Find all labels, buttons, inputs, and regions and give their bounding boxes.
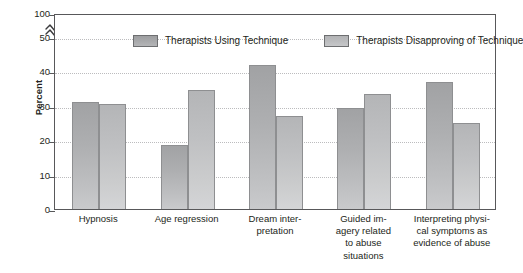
- category-label-line: Interpreting physi-: [402, 213, 502, 225]
- category-label-line: Guided im-: [313, 213, 413, 225]
- bar: [249, 65, 276, 209]
- category-label-line: pretation: [225, 225, 325, 237]
- x-axis-category-label: Interpreting physi-cal symptoms aseviden…: [402, 213, 502, 250]
- bar: [161, 145, 188, 209]
- bars: [55, 15, 495, 209]
- y-axis-tick-label: 30: [26, 102, 50, 112]
- x-axis-category-label: Age regression: [136, 213, 236, 225]
- y-axis-tick-label: 50: [26, 33, 50, 43]
- y-axis-tick-label: 0: [26, 205, 50, 215]
- y-axis-tick-label: 10: [26, 171, 50, 181]
- y-axis-tick-mark: [49, 211, 55, 212]
- category-label-line: agery related: [313, 225, 413, 237]
- bar: [188, 90, 215, 209]
- category-label-line: cal symptoms as: [402, 225, 502, 237]
- bar: [276, 116, 303, 209]
- bar: [337, 108, 364, 209]
- category-label-line: Age regression: [136, 213, 236, 225]
- category-label-line: Hypnosis: [48, 213, 148, 225]
- x-axis-category-labels: HypnosisAge regressionDream inter-pretat…: [54, 213, 496, 273]
- bar: [72, 102, 99, 209]
- category-label-line: to abuse: [313, 237, 413, 249]
- bar: [364, 94, 391, 209]
- bar: [426, 82, 453, 209]
- category-label-line: situations: [313, 250, 413, 262]
- category-label-line: Dream inter-: [225, 213, 325, 225]
- x-axis-category-label: Guided im-agery relatedto abusesituation…: [313, 213, 413, 262]
- y-axis-tick-label: 20: [26, 136, 50, 146]
- y-axis-tick-labels: 01020304050100: [24, 0, 50, 273]
- bar: [99, 104, 126, 209]
- x-axis-category-label: Hypnosis: [48, 213, 148, 225]
- plot-area: Therapists Using Technique Therapists Di…: [54, 14, 496, 210]
- y-axis-tick-label: 100: [26, 9, 50, 19]
- category-label-line: evidence of abuse: [402, 237, 502, 249]
- x-axis-category-label: Dream inter-pretation: [225, 213, 325, 237]
- bar: [453, 123, 480, 209]
- y-axis-tick-label: 40: [26, 67, 50, 77]
